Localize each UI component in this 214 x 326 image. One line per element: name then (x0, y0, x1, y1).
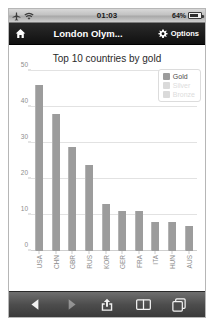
chart-bar[interactable] (68, 147, 76, 251)
x-tick-mark (72, 251, 73, 254)
x-tick-label: CHN (52, 255, 59, 269)
x-tick-label: AUS (185, 255, 192, 268)
chart-title: Top 10 countries by gold (9, 45, 205, 65)
gear-icon (158, 25, 168, 43)
legend-swatch (163, 82, 170, 89)
chart-bar-slot[interactable]: GER (114, 71, 131, 251)
legend-item[interactable]: Bronze (163, 91, 195, 98)
status-bar: 01:03 64% (9, 9, 205, 23)
y-tick-label: 0 (24, 241, 28, 248)
x-tick-label: RUS (86, 255, 93, 269)
back-arrow-icon[interactable] (23, 295, 47, 315)
legend-item[interactable]: Silver (163, 82, 195, 89)
options-label: Options (171, 29, 199, 38)
book-icon[interactable] (131, 295, 155, 315)
legend-label: Gold (173, 73, 188, 80)
chart-plot-wrapper: 01020304050 USACHNGBRRUSKORGERFRAITAHUNA… (9, 67, 205, 291)
chart-bar-slot[interactable]: GBR (64, 71, 81, 251)
x-tick-label: HUN (169, 255, 176, 269)
options-button[interactable]: Options (158, 25, 199, 43)
chart-bar[interactable] (151, 222, 159, 251)
chart-bar[interactable] (185, 226, 193, 251)
chart-bar-slot[interactable]: KOR (97, 71, 114, 251)
x-tick-mark (55, 251, 56, 254)
chart-bar-slot[interactable]: CHN (48, 71, 65, 251)
chart-legend[interactable]: GoldSilverBronze (158, 69, 201, 102)
x-tick-label: GBR (69, 255, 76, 269)
x-tick-label: GER (119, 255, 126, 269)
chart-bar-slot[interactable]: USA (31, 71, 48, 251)
chart-bar[interactable] (102, 204, 110, 251)
y-tick-label: 10 (21, 205, 28, 212)
forward-arrow-icon[interactable] (59, 295, 83, 315)
page-title: London Olym... (43, 23, 133, 45)
y-tick-label: 20 (21, 169, 28, 176)
x-tick-mark (188, 251, 189, 254)
chart-bar[interactable] (168, 222, 176, 251)
x-tick-mark (105, 251, 106, 254)
legend-item[interactable]: Gold (163, 73, 195, 80)
x-tick-mark (89, 251, 90, 254)
x-tick-mark (122, 251, 123, 254)
chart-bar-slot[interactable]: RUS (81, 71, 98, 251)
x-tick-mark (39, 251, 40, 254)
chart-bar-slot[interactable]: FRA (131, 71, 148, 251)
legend-label: Silver (173, 82, 191, 89)
x-tick-label: KOR (102, 255, 109, 269)
y-tick-label: 40 (21, 97, 28, 104)
legend-swatch (163, 73, 170, 80)
browser-toolbar (9, 291, 205, 317)
chart-bar[interactable] (35, 85, 43, 251)
y-tick-label: 30 (21, 133, 28, 140)
app-nav-bar: London Olym... Options (9, 23, 205, 45)
x-tick-label: ITA (152, 255, 159, 265)
battery-fill (190, 14, 198, 17)
chart-bar[interactable] (118, 211, 126, 251)
legend-label: Bronze (173, 91, 195, 98)
x-tick-mark (172, 251, 173, 254)
x-tick-label: USA (36, 255, 43, 268)
chart-bar[interactable] (52, 114, 60, 251)
share-icon[interactable] (95, 295, 119, 315)
x-tick-label: FRA (135, 255, 142, 268)
home-icon[interactable] (15, 25, 26, 43)
x-tick-mark (138, 251, 139, 254)
tabs-icon[interactable] (167, 295, 191, 315)
legend-swatch (163, 91, 170, 98)
phone-device-frame: 01:03 64% London Olym... Options Top 10 … (8, 8, 206, 318)
battery-icon (188, 12, 202, 19)
status-bar-clock: 01:03 (9, 9, 205, 23)
chart-bar[interactable] (135, 211, 143, 251)
chart-bar[interactable] (85, 165, 93, 251)
web-content-area[interactable]: Top 10 countries by gold 01020304050 USA… (9, 45, 205, 291)
y-tick-label: 50 (21, 61, 28, 68)
x-tick-mark (155, 251, 156, 254)
